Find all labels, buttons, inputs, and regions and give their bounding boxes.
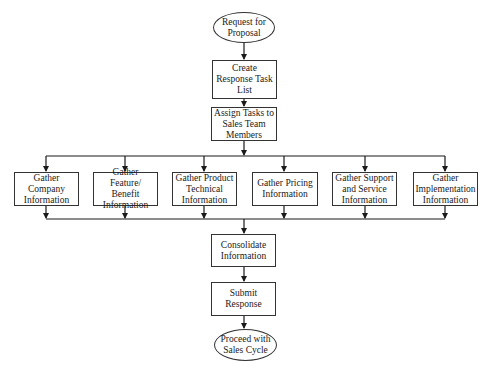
- node-label: Gather Product Technical Information: [176, 173, 234, 206]
- node-gather-feature-benefit-information: Gather Feature/ Benefit Information: [93, 172, 158, 206]
- node-label: Submit Response: [225, 288, 261, 310]
- node-gather-support-service-information: Gather Support and Service Information: [332, 172, 397, 206]
- node-consolidate-information: Consolidate Information: [211, 234, 276, 267]
- node-label: Gather Company Information: [24, 173, 69, 206]
- node-label: Gather Implementation Information: [415, 173, 475, 206]
- node-request-for-proposal: Request for Proposal: [213, 12, 275, 43]
- node-label: Assign Tasks to Sales Team Members: [214, 108, 274, 141]
- node-gather-implementation-information: Gather Implementation Information: [413, 172, 478, 206]
- node-create-response-task-list: Create Response Task List: [212, 60, 277, 99]
- node-label: Gather Pricing Information: [257, 178, 313, 200]
- node-label: Gather Support and Service Information: [335, 173, 393, 206]
- node-label: Consolidate Information: [221, 240, 266, 262]
- node-proceed-with-sales-cycle: Proceed with Sales Cycle: [214, 329, 277, 361]
- node-assign-tasks: Assign Tasks to Sales Team Members: [211, 107, 277, 141]
- node-label: Request for Proposal: [222, 17, 266, 39]
- node-label: Gather Feature/ Benefit Information: [96, 167, 155, 211]
- node-gather-pricing-information: Gather Pricing Information: [252, 172, 318, 206]
- node-gather-company-information: Gather Company Information: [14, 172, 79, 206]
- node-label: Proceed with Sales Cycle: [221, 334, 271, 356]
- node-label: Create Response Task List: [216, 63, 272, 96]
- node-submit-response: Submit Response: [211, 282, 276, 316]
- node-gather-product-technical-information: Gather Product Technical Information: [172, 172, 237, 206]
